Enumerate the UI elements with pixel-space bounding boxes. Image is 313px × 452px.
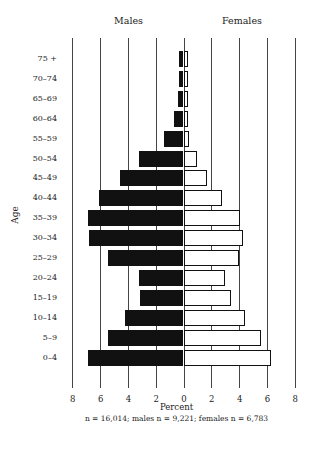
bar-males	[88, 210, 184, 226]
bar-males	[174, 111, 184, 127]
bar-males	[139, 270, 183, 286]
age-group-label: 40–44	[7, 193, 57, 202]
bar-females	[184, 151, 198, 167]
age-group-label: 30–34	[7, 233, 57, 242]
bar-females	[184, 330, 262, 346]
bar-females	[184, 250, 240, 266]
bar-females	[184, 51, 188, 67]
sample-size-caption: n = 16,014; males n = 9,221; females n =…	[0, 414, 313, 423]
bar-females	[184, 131, 190, 147]
bar-females	[184, 91, 188, 107]
bar-males	[164, 131, 183, 147]
males-header: Males	[114, 15, 143, 26]
age-group-label: 70–74	[7, 74, 57, 83]
tick-mark	[184, 383, 185, 388]
tick-mark	[100, 383, 101, 388]
age-group-label: 5–9	[7, 333, 57, 342]
bar-females	[184, 210, 241, 226]
bar-males	[108, 250, 183, 266]
bar-males	[139, 151, 183, 167]
females-header: Females	[222, 15, 262, 26]
bar-males	[125, 310, 183, 326]
bar-males	[89, 230, 184, 246]
bar-females	[184, 290, 231, 306]
gridline	[72, 38, 73, 383]
tick-mark	[267, 383, 268, 388]
age-group-label: 35–39	[7, 213, 57, 222]
age-group-label: 65–69	[7, 94, 57, 103]
bar-females	[184, 111, 188, 127]
bar-males	[88, 350, 184, 366]
age-group-label: 55–59	[7, 134, 57, 143]
bar-females	[184, 230, 244, 246]
tick-mark	[128, 383, 129, 388]
tick-mark	[156, 383, 157, 388]
age-group-label: 10–14	[7, 313, 57, 322]
age-group-label: 25–29	[7, 253, 57, 262]
age-group-label: 0–4	[7, 353, 57, 362]
gridline	[267, 38, 268, 383]
tick-mark	[239, 383, 240, 388]
bar-females	[184, 170, 208, 186]
bar-males	[108, 330, 183, 346]
bar-females	[184, 310, 245, 326]
gridline	[295, 38, 296, 383]
bar-females	[184, 71, 188, 87]
tick-mark	[295, 383, 296, 388]
bar-females	[184, 350, 272, 366]
bar-males	[140, 290, 183, 306]
y-axis-labels: 75 +70–7465–6960–6455–5950–5445–4940–443…	[0, 0, 57, 452]
bar-females	[184, 190, 223, 206]
age-group-label: 15–19	[7, 293, 57, 302]
tick-mark	[72, 383, 73, 388]
bar-males	[120, 170, 184, 186]
tick-mark	[211, 383, 212, 388]
age-group-label: 45–49	[7, 173, 57, 182]
age-group-label: 60–64	[7, 114, 57, 123]
age-group-label: 75 +	[7, 54, 57, 63]
bar-males	[99, 190, 184, 206]
bar-females	[184, 270, 226, 286]
age-group-label: 50–54	[7, 154, 57, 163]
x-axis-title: Percent	[0, 402, 313, 412]
age-group-label: 20–24	[7, 273, 57, 282]
